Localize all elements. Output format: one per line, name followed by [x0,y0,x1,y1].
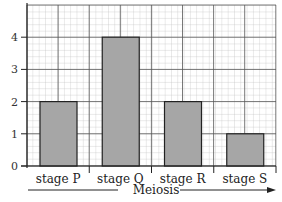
y-tick-label: 2 [11,96,18,109]
y-tick-label: 4 [11,31,18,44]
x-tick-label: stage P [36,172,81,186]
bar-stage-R [165,102,202,166]
x-tick-label: stage S [222,172,267,186]
bar-stage-S [227,134,264,166]
y-tick-label: 0 [11,160,18,173]
arrow-head-icon [267,187,276,193]
bar-chart: 01234 stage Pstage Qstage Rstage S Meios… [0,0,282,202]
bar-stage-Q [102,37,139,166]
y-tick-label: 3 [11,63,18,76]
x-axis-label: Meiosis [133,183,180,197]
bar-stage-P [40,102,77,166]
y-tick-label: 1 [11,128,18,141]
